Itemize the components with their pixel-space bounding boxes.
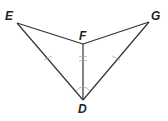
label-d: D bbox=[78, 102, 87, 116]
label-g: G bbox=[151, 9, 160, 23]
angle-arc-edf bbox=[76, 87, 83, 91]
angle-arc-fdg bbox=[83, 87, 90, 91]
label-e: E bbox=[5, 9, 14, 23]
segment-ed bbox=[17, 23, 83, 100]
label-f: F bbox=[79, 29, 87, 43]
segment-gd bbox=[83, 22, 149, 100]
segment-ef bbox=[17, 23, 83, 44]
triangle-diagram: E F G D bbox=[0, 0, 168, 121]
